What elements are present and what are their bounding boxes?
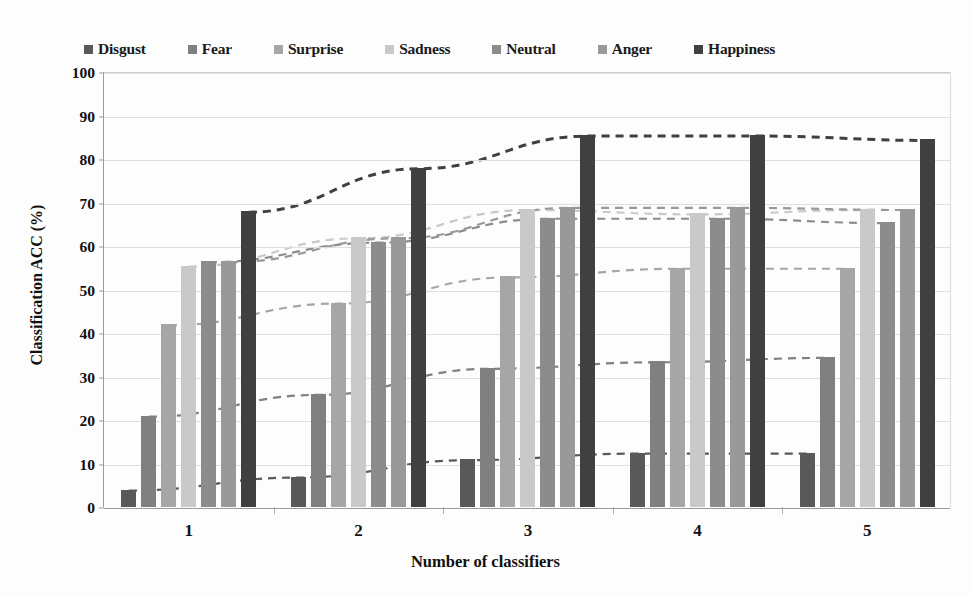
y-axis-tick-label: 40 [80, 325, 96, 343]
x-axis-tick-mark [613, 507, 614, 514]
bar-disgust-2[interactable] [291, 477, 306, 507]
bar-happiness-5[interactable] [920, 139, 935, 507]
bar-surprise-2[interactable] [331, 303, 346, 507]
chart-root: DisgustFearSurpriseSadnessNeutralAngerHa… [0, 0, 971, 596]
legend-label: Happiness [708, 40, 775, 58]
legend-item-surprise[interactable]: Surprise [274, 40, 343, 58]
x-axis-tick-label: 3 [443, 521, 613, 541]
bar-disgust-3[interactable] [460, 459, 475, 507]
legend-swatch-icon [385, 45, 394, 54]
y-axis-tick-label: 0 [87, 499, 95, 517]
plot-wrapper: 010203040506070809010012345 [103, 72, 951, 507]
legend-swatch-icon [598, 45, 607, 54]
legend-swatch-icon [694, 45, 703, 54]
legend-item-happiness[interactable]: Happiness [694, 40, 775, 58]
gridline: 0 [104, 508, 950, 509]
x-axis-tick-label: 1 [104, 521, 274, 541]
bar-anger-2[interactable] [391, 237, 406, 507]
x-axis-tick-mark [443, 507, 444, 514]
legend-swatch-icon [188, 45, 197, 54]
bar-group: 1 [104, 73, 274, 507]
legend-swatch-icon [274, 45, 283, 54]
bar-happiness-4[interactable] [750, 135, 765, 507]
bar-happiness-3[interactable] [580, 135, 595, 507]
bar-sadness-2[interactable] [351, 237, 366, 507]
x-axis-tick-label: 2 [274, 521, 444, 541]
bar-anger-3[interactable] [560, 207, 575, 507]
bar-group: 2 [274, 73, 444, 507]
legend-label: Neutral [506, 40, 555, 58]
bar-neutral-1[interactable] [201, 261, 216, 507]
x-axis-tick-label: 5 [782, 521, 952, 541]
y-axis-tick-label: 100 [72, 64, 95, 82]
y-axis-tick-label: 90 [80, 108, 96, 126]
legend-item-neutral[interactable]: Neutral [492, 40, 555, 58]
chart-legend: DisgustFearSurpriseSadnessNeutralAngerHa… [84, 38, 944, 60]
bar-anger-5[interactable] [900, 209, 915, 507]
bar-sadness-3[interactable] [520, 209, 535, 507]
legend-label: Disgust [98, 40, 146, 58]
bar-happiness-2[interactable] [411, 168, 426, 507]
bar-fear-5[interactable] [820, 357, 835, 507]
plot-area: 010203040506070809010012345 [103, 72, 951, 507]
bar-neutral-4[interactable] [710, 218, 725, 507]
y-axis-tick-mark [99, 508, 104, 509]
bar-group: 5 [782, 73, 952, 507]
bar-disgust-5[interactable] [800, 453, 815, 507]
bar-sadness-4[interactable] [690, 213, 705, 507]
bar-fear-2[interactable] [311, 394, 326, 507]
legend-item-anger[interactable]: Anger [598, 40, 652, 58]
bar-fear-4[interactable] [650, 361, 665, 507]
legend-item-sadness[interactable]: Sadness [385, 40, 450, 58]
x-axis-tick-mark [274, 507, 275, 514]
bar-disgust-1[interactable] [121, 490, 136, 507]
bar-happiness-1[interactable] [241, 211, 256, 507]
x-axis-tick-label: 4 [613, 521, 783, 541]
y-axis-tick-label: 30 [80, 369, 96, 387]
bar-disgust-4[interactable] [630, 453, 645, 507]
bar-surprise-5[interactable] [840, 268, 855, 507]
legend-label: Surprise [288, 40, 343, 58]
legend-label: Sadness [399, 40, 450, 58]
legend-swatch-icon [84, 45, 93, 54]
bar-sadness-1[interactable] [181, 266, 196, 507]
y-axis-tick-label: 70 [80, 195, 96, 213]
bar-neutral-5[interactable] [880, 222, 895, 507]
y-axis-tick-label: 10 [80, 456, 96, 474]
bar-surprise-3[interactable] [500, 276, 515, 507]
y-axis-tick-label: 80 [80, 151, 96, 169]
y-axis-tick-label: 50 [80, 282, 96, 300]
bar-group: 4 [613, 73, 783, 507]
legend-item-disgust[interactable]: Disgust [84, 40, 146, 58]
x-axis-title: Number of classifiers [0, 552, 971, 572]
legend-label: Anger [612, 40, 652, 58]
y-axis-title: Classification ACC (%) [28, 170, 46, 400]
legend-label: Fear [202, 40, 232, 58]
bar-fear-1[interactable] [141, 416, 156, 507]
legend-item-fear[interactable]: Fear [188, 40, 232, 58]
bar-neutral-3[interactable] [540, 218, 555, 507]
bar-surprise-4[interactable] [670, 268, 685, 507]
bar-sadness-5[interactable] [860, 209, 875, 507]
x-axis-tick-mark [782, 507, 783, 514]
bar-surprise-1[interactable] [161, 324, 176, 507]
bar-group: 3 [443, 73, 613, 507]
legend-swatch-icon [492, 45, 501, 54]
bar-anger-1[interactable] [221, 261, 236, 507]
bar-neutral-2[interactable] [371, 242, 386, 507]
bar-fear-3[interactable] [480, 368, 495, 507]
y-axis-tick-label: 60 [80, 238, 96, 256]
bar-anger-4[interactable] [730, 207, 745, 507]
y-axis-tick-label: 20 [80, 412, 96, 430]
